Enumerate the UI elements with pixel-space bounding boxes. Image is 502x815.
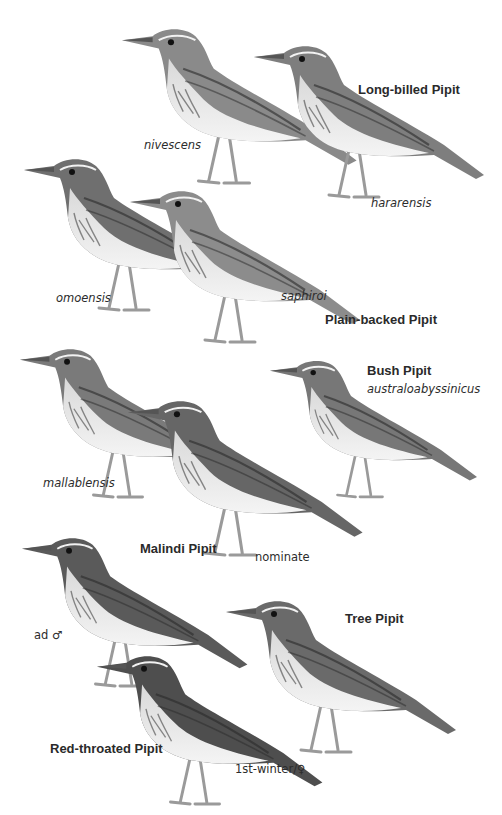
label-adult-male: ad ♂ <box>34 630 62 642</box>
label-omoensis: omoensis <box>56 293 111 305</box>
pipit-plate: Long-billed Pipit Plain-backed Pipit Bus… <box>0 0 502 815</box>
label-nivescens: nivescens <box>144 140 201 152</box>
label-long-billed-pipit: Long-billed Pipit <box>358 83 460 96</box>
bird-illustrations <box>0 0 502 815</box>
label-first-winter-female: 1st-winter/♀ <box>235 764 305 776</box>
label-tree-pipit: Tree Pipit <box>345 612 404 625</box>
label-hararensis: hararensis <box>371 198 431 210</box>
label-nominate: nominate <box>255 552 310 564</box>
bird-tree-pipit <box>226 601 456 752</box>
label-australoabyssinicus: australoabyssinicus <box>367 384 480 396</box>
label-bush-pipit: Bush Pipit <box>367 364 431 377</box>
label-plain-backed-pipit: Plain-backed Pipit <box>325 313 437 326</box>
label-malindi-pipit: Malindi Pipit <box>140 542 217 555</box>
label-saphiroi: saphiroi <box>281 291 327 303</box>
label-red-throated-pipit: Red-throated Pipit <box>50 742 163 755</box>
label-mallablensis: mallablensis <box>43 478 115 490</box>
